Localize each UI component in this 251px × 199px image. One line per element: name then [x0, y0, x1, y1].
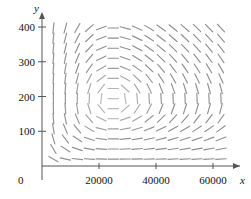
field-segment [182, 44, 189, 52]
field-segment [183, 84, 186, 94]
field-segment [170, 64, 176, 72]
field-segment [218, 34, 225, 42]
field-segment [145, 116, 153, 122]
field-segment [145, 25, 154, 30]
y-axis-arrow [39, 12, 45, 19]
field-segment [208, 84, 211, 94]
field-segment [97, 46, 107, 50]
field-segment [86, 35, 93, 42]
field-segment [171, 104, 175, 114]
field-segment [84, 148, 94, 150]
origin-label: 0 [18, 174, 24, 186]
field-segment [157, 115, 165, 122]
field-segment [65, 103, 66, 113]
field-segment [63, 124, 67, 134]
field-segment [132, 138, 142, 140]
field-segment [158, 64, 165, 72]
field-segment [137, 93, 138, 103]
field-segment [72, 158, 82, 159]
field-segment [205, 24, 212, 31]
field-segment [64, 43, 66, 53]
field-segment [86, 115, 93, 123]
field-segment [194, 54, 200, 62]
field-segment [65, 83, 66, 93]
field-segment [98, 84, 104, 92]
field-segment [133, 65, 141, 71]
field-segment [120, 27, 130, 30]
field-segment [53, 33, 54, 43]
field-segment [97, 66, 106, 71]
field-segment [206, 115, 212, 123]
field-segment [133, 56, 142, 61]
x-axis-arrow [233, 163, 240, 169]
field-segment [62, 135, 68, 143]
field-segment [60, 158, 70, 160]
tick-label-group: 200004000060000100200300400 [19, 21, 228, 186]
field-segment [84, 137, 94, 140]
field-segment [182, 64, 188, 73]
field-segment [157, 35, 165, 41]
field-segment [97, 117, 106, 121]
field-segment [88, 104, 91, 114]
field-segment [101, 93, 102, 103]
field-segment [217, 126, 225, 132]
field-segment [220, 83, 223, 93]
field-segment [159, 104, 163, 114]
field-segment [169, 35, 177, 42]
field-segment [144, 138, 154, 140]
field-segment [120, 117, 130, 120]
field-segment [192, 137, 202, 140]
field-segment [218, 115, 224, 123]
field-segment [170, 74, 175, 83]
field-segment [124, 93, 126, 103]
field-segment [120, 37, 130, 40]
y-tick-label: 200 [19, 91, 36, 103]
field-segment [193, 126, 202, 132]
field-segment [218, 54, 224, 63]
field-segment [53, 114, 54, 124]
field-segment [173, 93, 174, 103]
x-axis-label: x [239, 174, 245, 186]
field-segment [53, 53, 54, 63]
field-segment [170, 115, 177, 123]
field-segment [216, 159, 226, 160]
field-segment [53, 63, 54, 73]
field-segment [156, 148, 166, 149]
field-segment [96, 36, 106, 40]
field-segment [65, 73, 66, 83]
x-tick-label: 20000 [85, 174, 113, 186]
field-segment [53, 23, 54, 33]
field-segment [157, 55, 165, 62]
field-segment [181, 35, 189, 42]
field-segment [64, 33, 67, 43]
field-segment [218, 44, 224, 52]
field-segment [168, 159, 178, 160]
field-segment [120, 138, 130, 139]
field-segment [170, 54, 177, 62]
y-tick-label: 300 [19, 56, 36, 68]
field-segment [132, 149, 142, 150]
field-segment [161, 93, 162, 103]
field-segment [192, 159, 202, 160]
field-segment [77, 104, 79, 114]
field-segment [72, 147, 82, 150]
field-segment [98, 105, 105, 113]
field-segment [76, 73, 79, 83]
field-segment [53, 73, 54, 83]
field-segment [86, 64, 92, 73]
field-segment [180, 159, 190, 160]
field-segment [134, 84, 140, 93]
field-segment [192, 148, 202, 150]
field-segment [204, 137, 214, 141]
field-segment [159, 84, 163, 94]
field-segment [51, 145, 56, 154]
field-segment [97, 75, 105, 81]
field-segment [121, 85, 129, 92]
field-segment [194, 64, 200, 73]
field-segment [84, 159, 94, 160]
field-segment [133, 36, 142, 41]
field-segment [168, 148, 178, 150]
field-segment [208, 104, 211, 114]
field-segment [145, 65, 153, 72]
field-segment [157, 45, 165, 52]
